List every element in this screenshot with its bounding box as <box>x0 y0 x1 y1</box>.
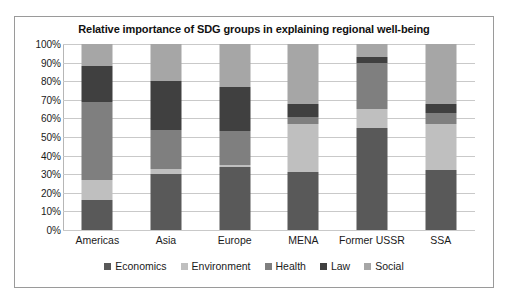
bar-segment[interactable] <box>288 172 319 230</box>
bar-segment[interactable] <box>288 117 319 124</box>
legend-label: Economics <box>115 260 166 272</box>
y-axis-tick-label: 80% <box>19 76 61 87</box>
bar-segment[interactable] <box>356 57 387 63</box>
bar-segment[interactable] <box>425 170 456 230</box>
y-axis-tick-label: 100% <box>19 39 61 50</box>
x-axis-tick-label: MENA <box>288 234 318 246</box>
legend-label: Health <box>276 260 306 272</box>
stacked-bar[interactable] <box>150 44 181 230</box>
bar-segment[interactable] <box>425 44 456 104</box>
bar-segment[interactable] <box>288 104 319 117</box>
bar-segment[interactable] <box>356 109 387 128</box>
y-axis-tick-label: 90% <box>19 57 61 68</box>
stacked-bar[interactable] <box>288 44 319 230</box>
y-axis-tick-label: 60% <box>19 113 61 124</box>
bar-segment[interactable] <box>82 66 113 101</box>
stacked-bar[interactable] <box>82 44 113 230</box>
stacked-bar[interactable] <box>219 44 250 230</box>
bar-segment[interactable] <box>356 128 387 230</box>
bar-segment[interactable] <box>288 124 319 172</box>
bar-segment[interactable] <box>425 124 456 171</box>
bar-segment[interactable] <box>425 113 456 124</box>
bar-segment[interactable] <box>425 104 456 113</box>
legend-item[interactable]: Law <box>320 260 350 272</box>
stacked-bar[interactable] <box>425 44 456 230</box>
bar-column <box>132 44 201 230</box>
y-axis-tick-label: 20% <box>19 187 61 198</box>
bar-segment[interactable] <box>356 44 387 57</box>
gridline <box>63 230 475 231</box>
y-axis-tick-label: 50% <box>19 132 61 143</box>
bar-segment[interactable] <box>82 200 113 230</box>
bar-segment[interactable] <box>150 169 181 175</box>
bar-segment[interactable] <box>150 130 181 169</box>
legend-swatch-icon <box>104 263 111 270</box>
bar-column <box>200 44 269 230</box>
stacked-bar[interactable] <box>356 44 387 230</box>
bar-segment[interactable] <box>219 167 250 230</box>
bar-segment[interactable] <box>150 44 181 81</box>
bar-segment[interactable] <box>356 63 387 110</box>
bar-column <box>338 44 407 230</box>
chart-legend: EconomicsEnvironmentHealthLawSocial <box>15 260 493 272</box>
y-axis: 0%10%20%30%40%50%60%70%80%90%100% <box>15 44 61 230</box>
x-axis-tick-label: Former USSR <box>339 234 405 246</box>
bar-segment[interactable] <box>82 44 113 66</box>
legend-swatch-icon <box>364 263 371 270</box>
y-axis-tick-label: 30% <box>19 169 61 180</box>
bar-segment[interactable] <box>219 87 250 132</box>
legend-item[interactable]: Environment <box>181 260 251 272</box>
legend-item[interactable]: Social <box>364 260 404 272</box>
y-axis-tick-label: 0% <box>19 225 61 236</box>
x-axis-tick-label: Americas <box>75 234 119 246</box>
bar-segment[interactable] <box>82 102 113 180</box>
legend-swatch-icon <box>181 263 188 270</box>
x-axis-tick-label: Europe <box>218 234 252 246</box>
legend-item[interactable]: Economics <box>104 260 166 272</box>
bar-segment[interactable] <box>219 44 250 87</box>
bar-column <box>269 44 338 230</box>
legend-label: Law <box>331 260 350 272</box>
chart-frame: Relative importance of SDG groups in exp… <box>14 16 494 288</box>
legend-label: Environment <box>192 260 251 272</box>
y-axis-tick-label: 10% <box>19 206 61 217</box>
legend-label: Social <box>375 260 404 272</box>
bar-segment[interactable] <box>82 180 113 200</box>
x-axis-tick-label: SSA <box>430 234 451 246</box>
plot-area <box>63 44 475 230</box>
legend-item[interactable]: Health <box>265 260 306 272</box>
legend-swatch-icon <box>265 263 272 270</box>
bar-column <box>63 44 132 230</box>
y-axis-tick-label: 40% <box>19 150 61 161</box>
bar-segment[interactable] <box>219 131 250 164</box>
bar-column <box>406 44 475 230</box>
bar-segment[interactable] <box>150 174 181 230</box>
y-axis-tick-label: 70% <box>19 94 61 105</box>
bar-segment[interactable] <box>219 165 250 167</box>
bar-segment[interactable] <box>150 81 181 129</box>
bar-segment[interactable] <box>288 44 319 104</box>
chart-title: Relative importance of SDG groups in exp… <box>15 23 493 35</box>
legend-swatch-icon <box>320 263 327 270</box>
x-axis-tick-label: Asia <box>156 234 176 246</box>
